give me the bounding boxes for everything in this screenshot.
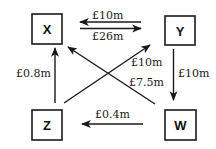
node-z: Z (32, 110, 62, 140)
flow-label-x-to-y: £26m (92, 30, 124, 43)
flow-arrow-z-to-y (64, 45, 150, 103)
node-w: W (165, 110, 196, 140)
node-y-label: Y (176, 24, 185, 39)
node-z-label: Z (43, 118, 51, 133)
flow-label-w-to-z: £0.4m (95, 108, 130, 121)
flow-label-w-to-x: £7.5m (129, 76, 164, 89)
flow-label-y-to-w: £10m (178, 67, 210, 80)
node-x-label: X (43, 22, 52, 37)
flow-label-z-to-x: £0.8m (16, 67, 51, 80)
node-w-label: W (174, 118, 187, 133)
flow-diagram: X Y Z W £10m £26m £0.8m £10m £10m £7.5m … (0, 0, 216, 149)
flow-label-z-to-y: £10m (131, 56, 163, 69)
node-x: X (32, 14, 62, 44)
flow-label-y-to-x: £10m (92, 9, 124, 22)
node-y: Y (165, 16, 195, 45)
